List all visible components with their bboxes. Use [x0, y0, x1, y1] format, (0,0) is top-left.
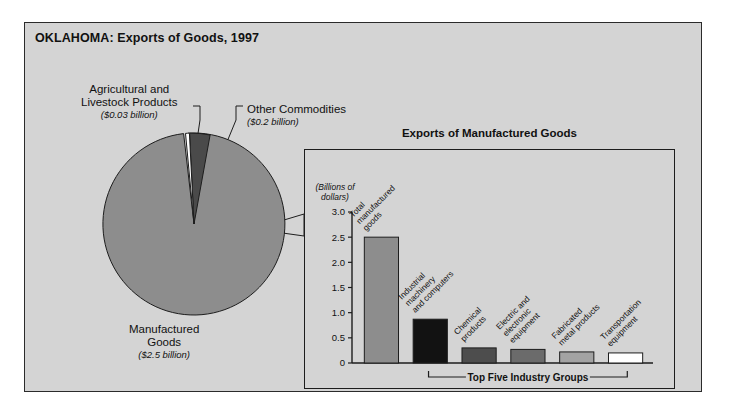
y-axis-tick-2: 1.0	[332, 307, 345, 318]
pie-label-agricultural-value: ($0.03 billion)	[81, 109, 178, 121]
pie-label-manufactured-line1: Manufactured	[129, 323, 199, 335]
y-axis-tick-0: 0	[340, 357, 345, 368]
pie-label-other: Other Commodities ($0.2 billion)	[247, 103, 346, 128]
pie-label-agricultural-line2: Livestock Products	[81, 96, 178, 108]
pie-label-other-line1: Other Commodities	[247, 103, 346, 115]
industry-groups-bracket: Top Five Industry Groups	[429, 371, 628, 383]
bar-1	[413, 319, 447, 363]
pie-label-manufactured: Manufactured Goods ($2.5 billion)	[129, 323, 199, 361]
bar-label-0: Totalmanufacturedgoods	[347, 176, 404, 233]
bar-0	[364, 237, 398, 363]
y-axis-tick-3: 1.5	[332, 282, 345, 293]
y-axis-unit-line2: dollars)	[321, 192, 349, 202]
y-axis-tick-4: 2.0	[332, 257, 345, 268]
pie-chart	[101, 131, 287, 317]
y-axis-tick-5: 2.5	[332, 232, 345, 243]
pie-label-manufactured-value: ($2.5 billion)	[129, 349, 199, 361]
y-axis-unit-line1: (Billions of	[315, 182, 356, 192]
inset-panel: 00.51.01.52.02.53.0(Billions ofdollars)T…	[304, 149, 675, 389]
y-axis-tick-6: 3.0	[332, 206, 345, 217]
bar-5	[608, 353, 642, 363]
bracket-label: Top Five Industry Groups	[467, 372, 588, 383]
bar-label-2: Chemicalproducts	[452, 305, 490, 343]
page-title: OKLAHOMA: Exports of Goods, 1997	[35, 31, 259, 45]
bar-2	[462, 348, 496, 363]
bar-chart-svg: 00.51.01.52.02.53.0(Billions ofdollars)T…	[305, 150, 676, 390]
bar-3	[511, 349, 545, 363]
inset-title: Exports of Manufactured Goods	[304, 127, 675, 139]
y-axis-tick-1: 0.5	[332, 332, 345, 343]
pie-label-agricultural-line1: Agricultural and	[89, 83, 169, 95]
figure-panel: OKLAHOMA: Exports of Goods, 1997 Agricul…	[24, 22, 702, 392]
bar-label-5: Transportationequipment	[598, 297, 650, 349]
pie-svg	[101, 131, 287, 317]
bar-4	[560, 352, 594, 363]
bar-label-4: Fabricatedmetal products	[549, 295, 601, 347]
bar-label-3: Electric andelectronicequipment	[494, 294, 545, 345]
pie-label-agricultural: Agricultural and Livestock Products ($0.…	[81, 83, 178, 121]
pie-label-manufactured-line2: Goods	[147, 336, 181, 348]
bar-label-1: Industrialmachineryand computers	[396, 255, 455, 314]
